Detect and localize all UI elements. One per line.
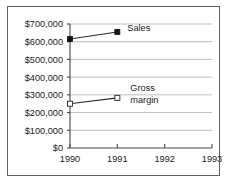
y-tick-label: $300,000 [25,90,63,100]
y-tick-label: $200,000 [25,108,63,118]
x-tick-label: 1990 [60,154,80,164]
series-label-sales: Sales [127,23,150,33]
series-annotations: SalesGrossmargin [127,23,158,105]
x-axis [70,144,212,148]
y-tick-label: $700,000 [25,19,63,29]
series-line [70,98,117,104]
gridlines [70,24,212,130]
y-tick-label: $500,000 [25,55,63,65]
series-label-gross-margin-line2: margin [130,95,158,105]
series-label-gross-margin-line1: Gross [130,83,155,93]
chart-figure: $700,000$600,000$500,000$400,000$300,000… [0,0,228,184]
x-tick-label: 1993 [202,154,222,164]
y-tick-label: $0 [53,143,63,153]
data-point-marker [68,101,73,106]
y-tick-labels: $700,000$600,000$500,000$400,000$300,000… [25,19,63,153]
y-tick-label: $600,000 [25,37,63,47]
data-point-marker [115,29,120,34]
chart-plot-area: $700,000$600,000$500,000$400,000$300,000… [0,0,228,184]
x-tick-label: 1991 [107,154,127,164]
y-tick-label: $100,000 [25,126,63,136]
y-tick-label: $400,000 [25,73,63,83]
series-line [70,32,117,39]
data-point-marker [68,37,73,42]
y-axis [67,24,70,148]
x-tick-labels: 1990199119921993 [60,154,222,164]
data-point-marker [115,95,120,100]
x-tick-label: 1992 [154,154,174,164]
